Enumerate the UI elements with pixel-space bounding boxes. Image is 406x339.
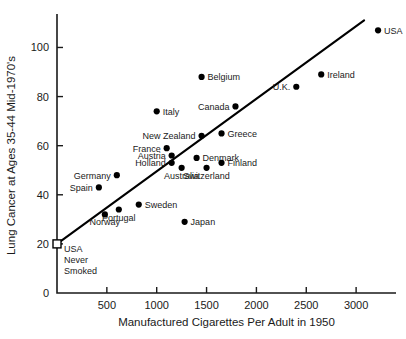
x-axis-tick-label: 500 <box>98 299 116 311</box>
data-point <box>318 71 324 77</box>
data-point <box>218 130 224 136</box>
x-axis-tick-label: 2500 <box>294 299 318 311</box>
data-point <box>198 133 204 139</box>
x-axis-tick-label: 2000 <box>244 299 268 311</box>
data-point <box>182 219 188 225</box>
data-point <box>136 202 142 208</box>
x-axis-title: Manufactured Cigarettes Per Adult in 195… <box>118 316 335 328</box>
data-point-label: Holland <box>135 158 166 168</box>
data-point-label: Germany <box>74 171 112 181</box>
data-point <box>232 103 238 109</box>
data-point-label: New Zealand <box>143 131 196 141</box>
data-point-label: Greece <box>228 129 258 139</box>
data-point-label: Belgium <box>208 72 241 82</box>
reference-point-label: USA <box>64 244 83 254</box>
data-point-label: Japan <box>191 217 216 227</box>
x-axis-tick-label: 1500 <box>194 299 218 311</box>
data-point <box>293 84 299 90</box>
reference-point-label: Never <box>64 255 88 265</box>
x-axis-tick-label: 1000 <box>144 299 168 311</box>
data-point <box>198 74 204 80</box>
scatter-chart: 02040608010050010001500200025003000Manuf… <box>0 0 406 339</box>
data-point <box>375 27 381 33</box>
y-axis-tick-label: 40 <box>37 189 49 201</box>
y-axis-title: Lung Cancer at Ages 35-44 Mid-1970's <box>5 56 17 255</box>
data-point <box>193 155 199 161</box>
data-point-label: Italy <box>163 107 180 117</box>
data-point-label: Finland <box>228 158 258 168</box>
plot-area: 02040608010050010001500200025003000Manuf… <box>0 0 406 339</box>
data-point-label: Sweden <box>145 200 178 210</box>
data-point-label: U.K. <box>273 82 291 92</box>
data-point-label: USA <box>384 26 403 36</box>
reference-point-label: Smoked <box>64 266 97 276</box>
data-point <box>96 184 102 190</box>
y-axis-tick-label: 0 <box>43 287 49 299</box>
data-point <box>114 172 120 178</box>
y-axis-tick-label: 80 <box>37 91 49 103</box>
data-point <box>218 160 224 166</box>
trend-line <box>57 20 364 243</box>
y-axis-tick-label: 100 <box>31 41 49 53</box>
data-point-label: Australia <box>164 171 199 181</box>
x-axis-tick-label: 3000 <box>344 299 368 311</box>
reference-point-marker <box>53 240 61 248</box>
data-point-label: Ireland <box>327 70 355 80</box>
y-axis-tick-label: 60 <box>37 140 49 152</box>
data-point <box>169 152 175 158</box>
data-point <box>169 160 175 166</box>
data-point-label: Spain <box>70 183 93 193</box>
data-point-label: Norway <box>90 217 121 227</box>
data-point-label: Canada <box>198 102 230 112</box>
y-axis-tick-label: 20 <box>37 238 49 250</box>
data-point <box>154 108 160 114</box>
